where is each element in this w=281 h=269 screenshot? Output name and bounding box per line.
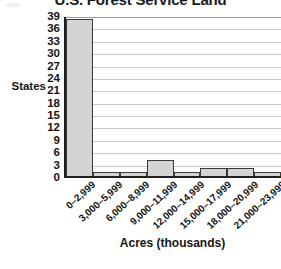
chart-title: U.S. Forest Service Land bbox=[0, 0, 281, 8]
bar[interactable] bbox=[174, 172, 201, 176]
y-axis-tick-label: 30 bbox=[47, 48, 60, 60]
bar-slot bbox=[174, 17, 201, 176]
y-axis-tick-label: 9 bbox=[54, 135, 60, 147]
y-axis-tick-label: 3 bbox=[54, 160, 60, 172]
bar-slot bbox=[200, 17, 227, 176]
y-axis-tick-label: 21 bbox=[47, 86, 60, 98]
bar-slot bbox=[120, 17, 147, 176]
bar-slot bbox=[66, 17, 93, 176]
bar[interactable] bbox=[120, 172, 147, 176]
bars-layer bbox=[66, 17, 281, 176]
y-axis-tick-label: 0 bbox=[54, 172, 60, 184]
y-axis-tick-label: 12 bbox=[47, 123, 60, 135]
bar-slot bbox=[147, 17, 174, 176]
bar-slot bbox=[254, 17, 281, 176]
bar-slot bbox=[93, 17, 120, 176]
y-axis-tick-labels: 393633302724211815129630 bbox=[34, 17, 60, 178]
plot-area bbox=[64, 17, 281, 178]
bar[interactable] bbox=[147, 160, 174, 177]
y-axis-tick-label: 6 bbox=[54, 147, 60, 159]
bar[interactable] bbox=[200, 168, 227, 176]
y-axis-tick-label: 36 bbox=[47, 24, 60, 36]
x-axis-tick-labels: 0–2,9993,000–5,9996,000–8,9999,000–11,99… bbox=[64, 179, 281, 233]
y-axis-tick-label: 18 bbox=[47, 98, 60, 110]
y-axis-tick-label: 39 bbox=[47, 11, 60, 23]
y-axis-tick-label: 15 bbox=[47, 110, 60, 122]
y-axis-tick-label: 27 bbox=[47, 61, 60, 73]
y-axis-tick-label: 33 bbox=[47, 36, 60, 48]
bar[interactable] bbox=[227, 168, 254, 176]
bar-slot bbox=[227, 17, 254, 176]
bar[interactable] bbox=[254, 172, 281, 176]
bar[interactable] bbox=[66, 19, 93, 176]
x-axis-title: Acres (thousands) bbox=[64, 236, 281, 250]
y-axis-tick-label: 24 bbox=[47, 73, 60, 85]
bar[interactable] bbox=[93, 172, 120, 176]
bar-chart-figure: U.S. Forest Service Land States 39363330… bbox=[0, 0, 281, 269]
